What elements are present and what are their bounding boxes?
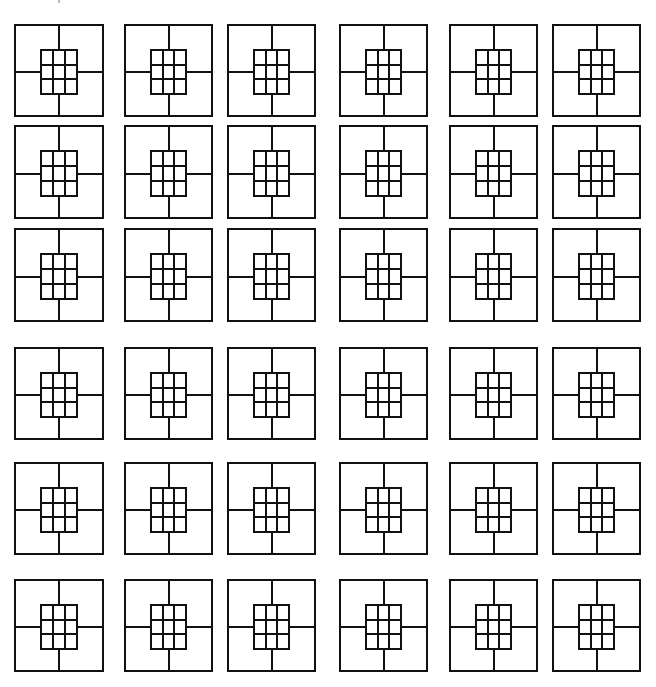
inner-grid-box	[41, 373, 77, 417]
top-edge-fragment	[58, 0, 60, 3]
inner-grid-box	[366, 373, 401, 417]
tile-r4-c2	[124, 347, 213, 440]
inner-grid-box	[366, 254, 401, 299]
tile-r1-c1	[14, 24, 104, 117]
tile-drawing-icon	[552, 24, 641, 117]
tile-drawing-icon	[552, 579, 641, 672]
tile-r1-c3	[227, 24, 316, 117]
inner-grid-box	[151, 373, 186, 417]
inner-grid-box	[41, 605, 77, 649]
tile-drawing-icon	[124, 125, 213, 219]
tile-drawing-icon	[227, 24, 316, 117]
inner-grid-box	[476, 254, 511, 299]
tile-r3-c6	[552, 228, 641, 322]
tile-r6-c1	[14, 579, 104, 672]
inner-grid-box	[366, 50, 401, 94]
inner-grid-box	[366, 488, 401, 532]
tile-drawing-icon	[339, 24, 428, 117]
tile-r2-c2	[124, 125, 213, 219]
tile-drawing-icon	[339, 228, 428, 322]
tile-r5-c1	[14, 462, 104, 555]
tile-r6-c4	[339, 579, 428, 672]
inner-grid-box	[476, 50, 511, 94]
tile-drawing-icon	[14, 579, 104, 672]
tile-r5-c3	[227, 462, 316, 555]
tile-r5-c2	[124, 462, 213, 555]
tile-r3-c2	[124, 228, 213, 322]
inner-grid-box	[476, 151, 511, 196]
inner-grid-box	[579, 151, 614, 196]
tile-r6-c6	[552, 579, 641, 672]
tile-drawing-icon	[552, 228, 641, 322]
inner-grid-box	[254, 488, 289, 532]
inner-grid-box	[151, 605, 186, 649]
tile-drawing-icon	[552, 347, 641, 440]
tile-drawing-icon	[14, 347, 104, 440]
inner-grid-box	[151, 151, 186, 196]
tile-r3-c5	[449, 228, 538, 322]
tile-r6-c3	[227, 579, 316, 672]
inner-grid-box	[254, 254, 289, 299]
tile-drawing-icon	[124, 462, 213, 555]
tile-drawing-icon	[124, 579, 213, 672]
tile-drawing-icon	[227, 347, 316, 440]
tile-drawing-icon	[339, 579, 428, 672]
inner-grid-box	[476, 605, 511, 649]
tile-r4-c6	[552, 347, 641, 440]
tile-drawing-icon	[449, 125, 538, 219]
tile-drawing-icon	[552, 462, 641, 555]
tile-drawing-icon	[449, 347, 538, 440]
inner-grid-box	[254, 50, 289, 94]
tile-drawing-icon	[339, 462, 428, 555]
tile-r2-c5	[449, 125, 538, 219]
tile-r1-c4	[339, 24, 428, 117]
tile-r1-c2	[124, 24, 213, 117]
tile-grid-figure	[0, 0, 656, 687]
tile-r4-c1	[14, 347, 104, 440]
tile-r4-c5	[449, 347, 538, 440]
inner-grid-box	[476, 373, 511, 417]
tile-drawing-icon	[227, 125, 316, 219]
tile-r3-c1	[14, 228, 104, 322]
tile-drawing-icon	[14, 228, 104, 322]
tile-drawing-icon	[14, 125, 104, 219]
inner-grid-box	[579, 488, 614, 532]
tile-r5-c5	[449, 462, 538, 555]
tile-drawing-icon	[449, 579, 538, 672]
tile-drawing-icon	[227, 579, 316, 672]
tile-r3-c4	[339, 228, 428, 322]
tile-drawing-icon	[14, 24, 104, 117]
tile-drawing-icon	[124, 228, 213, 322]
tile-r6-c2	[124, 579, 213, 672]
tile-drawing-icon	[449, 462, 538, 555]
tile-drawing-icon	[227, 462, 316, 555]
tile-drawing-icon	[14, 462, 104, 555]
inner-grid-box	[41, 151, 77, 196]
tile-r2-c1	[14, 125, 104, 219]
inner-grid-box	[366, 605, 401, 649]
tile-r5-c4	[339, 462, 428, 555]
inner-grid-box	[151, 488, 186, 532]
tile-drawing-icon	[124, 24, 213, 117]
tile-r2-c4	[339, 125, 428, 219]
inner-grid-box	[579, 254, 614, 299]
inner-grid-box	[366, 151, 401, 196]
tile-drawing-icon	[449, 24, 538, 117]
inner-grid-box	[41, 488, 77, 532]
inner-grid-box	[151, 50, 186, 94]
inner-grid-box	[254, 151, 289, 196]
tile-r2-c6	[552, 125, 641, 219]
inner-grid-box	[151, 254, 186, 299]
inner-grid-box	[41, 50, 77, 94]
tile-drawing-icon	[339, 125, 428, 219]
tile-drawing-icon	[449, 228, 538, 322]
inner-grid-box	[41, 254, 77, 299]
inner-grid-box	[579, 373, 614, 417]
tile-r1-c6	[552, 24, 641, 117]
tile-r1-c5	[449, 24, 538, 117]
tile-r4-c4	[339, 347, 428, 440]
tile-drawing-icon	[227, 228, 316, 322]
inner-grid-box	[254, 373, 289, 417]
tile-drawing-icon	[339, 347, 428, 440]
inner-grid-box	[476, 488, 511, 532]
